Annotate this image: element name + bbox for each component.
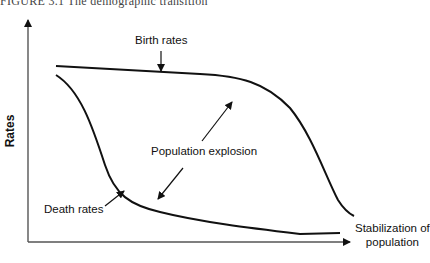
y-axis-label: Rates bbox=[3, 115, 17, 148]
death-arrow bbox=[105, 191, 124, 206]
stabilization-label: Stabilization of population bbox=[355, 221, 430, 249]
birth-rates-label: Birth rates bbox=[135, 34, 187, 46]
birth-rate-curve bbox=[56, 66, 354, 216]
explosion-arrow-up bbox=[202, 102, 232, 141]
explosion-arrow-down bbox=[158, 168, 183, 199]
death-rates-label: Death rates bbox=[44, 203, 103, 215]
stabilization-line-1: Stabilization of bbox=[355, 221, 430, 235]
stabilization-line-2: population bbox=[355, 235, 430, 249]
population-explosion-label: Population explosion bbox=[151, 145, 257, 157]
